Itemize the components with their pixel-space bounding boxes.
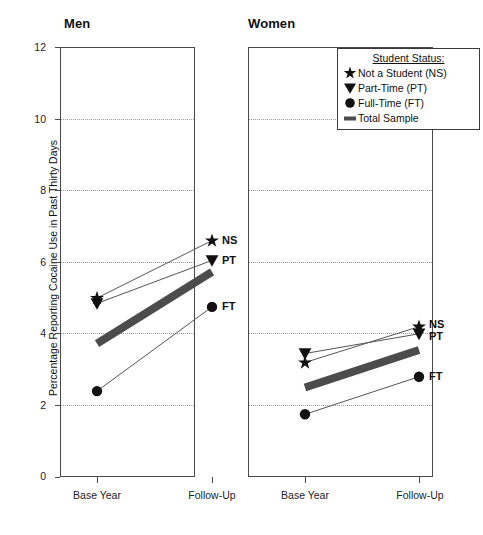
chart-legend: Student Status: Not a Student (NS) Part-…	[337, 48, 480, 130]
circle-icon	[342, 95, 357, 110]
women-pt-point-label: PT	[429, 330, 443, 342]
y-tickmark-0	[55, 477, 60, 478]
y-tick-label-0: 0	[24, 470, 46, 482]
gridline-women-4	[249, 333, 432, 334]
legend-item-total-sample: Total Sample	[342, 110, 475, 125]
men-pt-point-label: PT	[222, 254, 236, 266]
legend-item-full-time: Full-Time (FT)	[342, 95, 475, 110]
y-axis-title: Percentage Reporting Cocaine Use in Past…	[47, 58, 59, 478]
men-ns-marker-followup	[205, 233, 219, 246]
triangle-down-icon	[342, 80, 357, 95]
x-tickmark-men-base	[97, 477, 98, 483]
legend-item-not-a-student: Not a Student (NS)	[342, 65, 475, 80]
men-ft-marker-followup	[207, 302, 217, 312]
star-icon	[342, 65, 357, 80]
gridline-men-2	[61, 405, 194, 406]
chart-figure: Men Women Percentage Reporting Cocaine U…	[0, 0, 483, 535]
x-tickmark-women-followup	[419, 477, 420, 483]
y-tick-label-12: 12	[24, 41, 46, 53]
legend-label-not-a-student: Not a Student (NS)	[357, 67, 447, 79]
women-ft-point-label: FT	[429, 370, 442, 382]
legend-item-part-time: Part-Time (PT)	[342, 80, 475, 95]
men-ft-point-label: FT	[222, 300, 235, 312]
y-tick-label-4: 4	[24, 327, 46, 339]
thick-line-icon	[342, 110, 357, 125]
gridline-men-8	[61, 190, 194, 191]
legend-label-total-sample: Total Sample	[357, 112, 419, 124]
panel-title-men: Men	[64, 16, 90, 31]
panel-title-women: Women	[248, 16, 295, 31]
men-ns-point-label: NS	[222, 234, 237, 246]
legend-title: Student Status:	[342, 52, 475, 64]
y-tick-label-8: 8	[24, 184, 46, 196]
men-pt-marker-followup	[206, 255, 219, 267]
x-tick-label-men-base: Base Year	[67, 489, 127, 501]
gridline-women-8	[249, 190, 432, 191]
women-ns-point-label: NS	[429, 318, 444, 330]
x-tickmark-men-followup	[212, 477, 213, 483]
gridline-women-2	[249, 405, 432, 406]
y-tick-label-6: 6	[24, 256, 46, 268]
legend-label-full-time: Full-Time (FT)	[357, 97, 424, 109]
x-tick-label-men-followup: Follow-Up	[180, 489, 244, 501]
x-tick-label-women-followup: Follow-Up	[388, 489, 452, 501]
x-tickmark-women-base	[305, 477, 306, 483]
gridline-men-4	[61, 333, 194, 334]
y-tick-label-2: 2	[24, 399, 46, 411]
x-tick-label-women-base: Base Year	[275, 489, 335, 501]
gridline-men-10	[61, 119, 194, 120]
y-tick-label-10: 10	[24, 113, 46, 125]
gridline-women-6	[249, 262, 432, 263]
gridline-men-6	[61, 262, 194, 263]
legend-label-part-time: Part-Time (PT)	[357, 82, 427, 94]
